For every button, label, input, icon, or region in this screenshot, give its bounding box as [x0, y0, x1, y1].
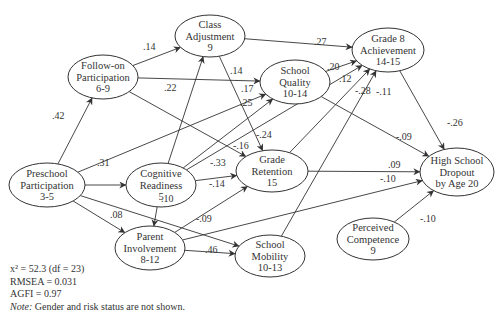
coefficient-label: .17	[241, 83, 254, 94]
node-label-line: Retention	[252, 166, 294, 177]
note: Note: Gender and risk status are not sho…	[10, 301, 185, 314]
node-label-line: by Age 20	[435, 178, 478, 189]
coefficient-label: .46	[205, 244, 218, 255]
edge-classadj-to-grade8	[245, 39, 353, 47]
coefficient-label: -.09	[196, 213, 212, 224]
coefficient-label: -.33	[210, 157, 226, 168]
node-label-line: Participation	[20, 180, 74, 191]
arrow-icon	[133, 47, 181, 65]
node-classadj: ClassAdjustment9	[175, 15, 245, 57]
node-label-line: 15	[267, 177, 278, 188]
coefficient-label: .22	[164, 82, 177, 93]
edge-cogready-to-classadj	[168, 57, 203, 164]
coefficient-label: .09	[388, 159, 401, 170]
node-label-line: School	[280, 65, 309, 76]
node-label-line: Involvement	[123, 243, 176, 254]
coefficient-label: .14	[230, 65, 243, 76]
node-preschool: PreschoolParticipation3-5	[9, 163, 85, 207]
coefficient-label: -.11	[376, 86, 391, 97]
node-label-line: 9	[207, 42, 212, 53]
coefficient-label: .25	[240, 97, 253, 108]
note-label: Note:	[10, 301, 32, 312]
coefficient-label: .27	[314, 36, 327, 47]
coefficient-label: -.16	[233, 140, 249, 151]
agfi-stat: AGFI = 0.97	[10, 288, 185, 301]
node-label-line: Mobility	[252, 251, 290, 262]
coefficient-label: -.24	[256, 129, 272, 140]
node-label-line: Follow-on	[81, 60, 126, 71]
edge-schoolquality-to-dropout	[321, 97, 429, 157]
node-followon: Follow-onParticipation6-9	[68, 55, 138, 99]
coefficient-label: -.09	[396, 131, 412, 142]
edge-followon-to-retention	[129, 92, 246, 157]
rmsea-stat: RMSEA = 0.031	[10, 276, 185, 289]
arrow-icon	[138, 78, 260, 81]
node-label-line: Parent	[137, 231, 164, 242]
edge-retention-to-dropout	[308, 171, 420, 172]
coefficient-label: .14	[143, 41, 156, 52]
node-label-line: 10-13	[258, 262, 283, 273]
fit-statistics: x² = 52.3 (df = 23) RMSEA = 0.031 AGFI =…	[10, 263, 185, 313]
edge-preschool-to-followon	[58, 98, 92, 164]
node-label-line: 10-14	[283, 88, 308, 99]
chi-square-stat: x² = 52.3 (df = 23)	[10, 263, 185, 276]
node-label-line: 6-9	[96, 83, 110, 94]
node-schoolquality: SchoolQuality10-14	[260, 60, 330, 104]
node-label-line: Preschool	[26, 168, 67, 179]
node-dropout: High SchoolDropoutby Age 20	[420, 148, 494, 196]
node-label-line: Cognitive	[140, 168, 182, 179]
node-label-line: School	[255, 239, 284, 250]
node-label-line: Achievement	[360, 45, 416, 56]
node-label-line: Adjustment	[186, 31, 235, 42]
node-label-line: Readiness	[140, 180, 183, 191]
node-retention: GradeRetention15	[236, 150, 308, 192]
coefficient-label: .42	[52, 110, 65, 121]
node-label-line: 14-15	[376, 56, 401, 67]
node-label-line: High School	[431, 155, 484, 166]
arrow-icon	[129, 92, 246, 157]
node-label-line: 3-5	[40, 191, 54, 202]
node-label-line: Grade	[259, 154, 285, 165]
node-label-line: 9	[370, 245, 375, 256]
coefficient-label: -.10	[420, 213, 436, 224]
note-text: Gender and risk status are not shown.	[32, 301, 185, 312]
nodes-layer: PreschoolParticipation3-5Follow-onPartic…	[9, 15, 494, 277]
node-label-line: Class	[199, 19, 222, 30]
coefficient-label: .10	[161, 193, 174, 204]
node-competence: PerceivedCompetence9	[337, 218, 409, 260]
edge-followon-to-schoolquality	[138, 78, 260, 81]
node-label-line: Quality	[279, 77, 311, 88]
edge-followon-to-classadj	[133, 47, 181, 65]
coefficient-label: -.28	[355, 85, 371, 96]
coefficient-label: .12	[339, 73, 352, 84]
coefficient-label: .31	[97, 157, 110, 168]
arrow-icon	[245, 39, 353, 47]
node-label-line: Participation	[76, 72, 130, 83]
node-label-line: Dropout	[440, 167, 475, 178]
edge-cogready-to-parent	[154, 207, 157, 226]
coefficient-label: -.14	[209, 178, 225, 189]
coefficient-label: -.26	[447, 117, 463, 128]
coefficient-label: .20	[327, 61, 340, 72]
node-label-line: Grade 8	[371, 33, 405, 44]
arrow-icon	[308, 171, 420, 172]
node-grade8: Grade 8Achievement14-15	[352, 28, 424, 72]
arrow-icon	[321, 97, 429, 157]
node-label-line: Competence	[347, 234, 400, 245]
arrow-icon	[58, 98, 92, 164]
node-label-line: Perceived	[352, 222, 394, 233]
node-mobility: SchoolMobility10-13	[235, 235, 305, 277]
arrow-icon	[154, 207, 157, 226]
arrow-icon	[168, 57, 203, 164]
coefficient-label: .08	[110, 209, 123, 220]
coefficient-label: -.10	[380, 173, 396, 184]
